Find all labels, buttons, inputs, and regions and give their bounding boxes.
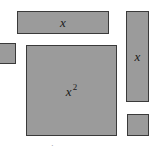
unit-tile-bottom-right: [127, 114, 149, 136]
x-squared-exponent: 2: [73, 82, 78, 92]
x-tile-horizontal-label: x: [60, 16, 66, 29]
x-tile-vertical-label: x: [135, 50, 141, 63]
x-squared-tile-label: x2: [66, 83, 77, 98]
bottom-mark: ·: [51, 141, 54, 150]
x-squared-tile: x2: [26, 45, 117, 136]
x-squared-base: x: [66, 84, 72, 99]
x-tile-horizontal: x: [17, 11, 109, 34]
x-tile-vertical: x: [126, 11, 149, 102]
unit-tile-left: [0, 43, 16, 64]
